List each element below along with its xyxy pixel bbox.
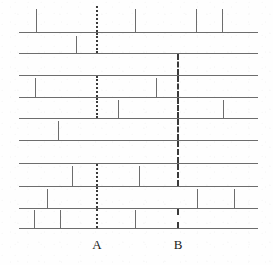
- reference-marker-b: [177, 98, 179, 118]
- reference-marker-a: [96, 98, 98, 118]
- marker-label-b: B: [166, 237, 190, 253]
- timeline-baseline: [19, 32, 258, 33]
- timeline-baseline: [19, 75, 258, 76]
- reference-marker-b: [177, 209, 179, 228]
- timeline-baseline: [19, 53, 258, 54]
- reference-marker-b: [177, 164, 179, 186]
- event-tick: [222, 9, 223, 32]
- event-tick: [139, 166, 140, 186]
- event-tick: [223, 100, 224, 118]
- event-tick: [35, 78, 36, 97]
- event-tick: [156, 78, 157, 97]
- event-tick: [76, 36, 77, 53]
- reference-marker-a: [96, 33, 98, 53]
- event-tick: [234, 189, 235, 208]
- reference-marker-b: [177, 119, 179, 140]
- event-tick: [47, 189, 48, 208]
- event-tick: [34, 210, 35, 228]
- reference-marker-a: [96, 76, 98, 97]
- figure-container: AB: [0, 0, 273, 265]
- event-tick: [36, 9, 37, 32]
- timeline-baseline: [19, 228, 258, 229]
- event-tick: [196, 9, 197, 32]
- reference-marker-a: [96, 164, 98, 186]
- timeline-baseline: [19, 140, 258, 141]
- timeline-baseline: [19, 97, 258, 98]
- event-tick: [72, 166, 73, 186]
- reference-marker-b: [177, 76, 179, 97]
- reference-marker-b: [177, 141, 179, 163]
- timeline-baseline: [19, 163, 258, 164]
- reference-marker-a: [96, 209, 98, 228]
- marker-label-a: A: [85, 237, 109, 253]
- reference-marker-a: [96, 6, 98, 32]
- event-tick: [118, 100, 119, 118]
- timeline-baseline: [19, 208, 258, 209]
- event-tick: [197, 189, 198, 208]
- timeline-baseline: [19, 118, 258, 119]
- reference-marker-a: [96, 187, 98, 208]
- timeline-baseline: [19, 186, 258, 187]
- timeline-plot-area: AB: [0, 0, 273, 265]
- event-tick: [60, 210, 61, 228]
- event-tick: [58, 121, 59, 140]
- event-tick: [135, 210, 136, 228]
- event-tick: [135, 9, 136, 32]
- reference-marker-b: [177, 54, 179, 75]
